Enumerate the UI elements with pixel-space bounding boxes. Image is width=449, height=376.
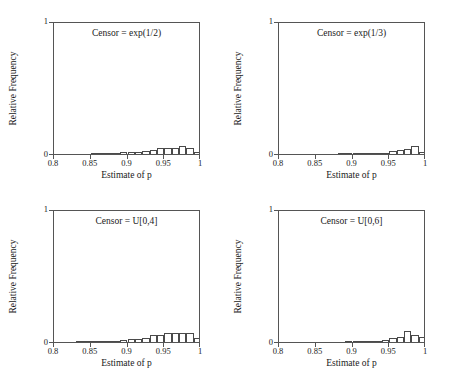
histogram-bar bbox=[179, 146, 186, 154]
histogram-bar bbox=[367, 341, 374, 342]
panel-body: Censor = U[0,4] Estimate of p Relative F… bbox=[0, 188, 224, 376]
histogram-bar bbox=[120, 152, 127, 154]
histogram-bar bbox=[411, 335, 418, 342]
histogram-bar bbox=[91, 153, 98, 154]
x-axis-tick-label: 0.95 bbox=[148, 158, 178, 168]
histogram-bar bbox=[382, 340, 389, 342]
histogram-bar bbox=[360, 153, 367, 154]
histogram-bar bbox=[157, 148, 164, 154]
histogram-bar bbox=[404, 331, 411, 342]
y-axis-tick bbox=[49, 210, 53, 211]
y-axis-title: Relative Frequency bbox=[233, 22, 247, 155]
histogram-bar bbox=[150, 335, 157, 342]
histogram-bar bbox=[120, 340, 127, 342]
x-axis-title: Estimate of p bbox=[53, 170, 200, 180]
panel-body: Censor = exp(1/2) Estimate of p Relative… bbox=[0, 0, 224, 188]
bar-series bbox=[54, 23, 199, 154]
x-axis-tick-label: 0.85 bbox=[75, 346, 105, 356]
histogram-bar bbox=[419, 152, 425, 154]
histogram-bar bbox=[128, 152, 135, 154]
histogram-bar bbox=[135, 339, 142, 342]
histogram-bar bbox=[194, 152, 200, 154]
histogram-bar bbox=[194, 338, 200, 342]
panel-caption: Censor = U[0,6] bbox=[278, 216, 425, 226]
histogram-bar bbox=[367, 153, 374, 154]
x-axis-tick-label: 1 bbox=[410, 158, 440, 168]
panel-censor-exp-1-3: Censor = exp(1/3) Estimate of p Relative… bbox=[225, 0, 449, 188]
histogram-bar bbox=[419, 337, 425, 342]
x-axis-tick-label: 1 bbox=[410, 346, 440, 356]
histogram-bar bbox=[375, 341, 382, 342]
x-axis-tick-label: 0.95 bbox=[373, 346, 403, 356]
x-axis-tick-label: 0.9 bbox=[337, 346, 367, 356]
histogram-bar bbox=[345, 153, 352, 154]
bar-series bbox=[279, 211, 424, 342]
y-axis-tick-label: 0 bbox=[34, 150, 48, 159]
histogram-bar bbox=[186, 333, 193, 342]
histogram-bar bbox=[113, 153, 120, 154]
y-axis-tick bbox=[49, 342, 53, 343]
x-axis-tick-label: 0.85 bbox=[300, 158, 330, 168]
histogram-bar bbox=[113, 341, 120, 342]
y-axis-title: Relative Frequency bbox=[8, 22, 22, 155]
histogram-bar bbox=[164, 148, 171, 154]
x-axis-tick-label: 1 bbox=[185, 158, 215, 168]
histogram-bar bbox=[172, 148, 179, 154]
histogram-bar bbox=[338, 153, 345, 154]
x-axis-tick-label: 0.8 bbox=[263, 346, 293, 356]
panel-censor-u-0-6: Censor = U[0,6] Estimate of p Relative F… bbox=[225, 188, 449, 376]
histogram-bar bbox=[128, 339, 135, 342]
y-axis-tick-label: 1 bbox=[34, 17, 48, 26]
x-axis-tick-label: 0.8 bbox=[38, 346, 68, 356]
histogram-bar bbox=[157, 335, 164, 342]
panel-censor-u-0-4: Censor = U[0,4] Estimate of p Relative F… bbox=[0, 188, 224, 376]
panel-body: Censor = U[0,6] Estimate of p Relative F… bbox=[225, 188, 449, 376]
histogram-bar bbox=[353, 153, 360, 154]
histogram-bar bbox=[135, 152, 142, 154]
histogram-bar bbox=[172, 333, 179, 342]
x-axis-tick-label: 0.85 bbox=[300, 346, 330, 356]
histogram-bar bbox=[164, 333, 171, 342]
y-axis-tick-label: 1 bbox=[34, 205, 48, 214]
histogram-bar bbox=[91, 341, 98, 342]
histogram-bar bbox=[98, 153, 105, 154]
y-axis-tick bbox=[274, 22, 278, 23]
x-axis-tick-label: 0.9 bbox=[337, 158, 367, 168]
histogram-bar bbox=[345, 341, 352, 342]
bar-series bbox=[279, 23, 424, 154]
y-axis-tick-label: 0 bbox=[259, 150, 273, 159]
histogram-bar bbox=[382, 153, 389, 154]
panel-censor-exp-1-2: Censor = exp(1/2) Estimate of p Relative… bbox=[0, 0, 224, 188]
histogram-bar bbox=[83, 341, 90, 342]
y-axis-title: Relative Frequency bbox=[233, 210, 247, 343]
histogram-bar bbox=[411, 146, 418, 154]
y-axis-tick bbox=[49, 22, 53, 23]
histogram-figure: Censor = exp(1/2) Estimate of p Relative… bbox=[0, 0, 449, 376]
x-axis-title: Estimate of p bbox=[278, 358, 425, 368]
y-axis-tick bbox=[274, 210, 278, 211]
panel-caption: Censor = U[0,4] bbox=[53, 216, 200, 226]
plot-area bbox=[278, 210, 425, 343]
histogram-bar bbox=[404, 149, 411, 154]
plot-area bbox=[278, 22, 425, 155]
x-axis-title: Estimate of p bbox=[53, 358, 200, 368]
histogram-bar bbox=[105, 341, 112, 342]
plot-area bbox=[53, 22, 200, 155]
y-axis-title: Relative Frequency bbox=[8, 210, 22, 343]
x-axis-tick-label: 0.9 bbox=[112, 346, 142, 356]
histogram-bar bbox=[142, 151, 149, 154]
y-axis-tick-label: 0 bbox=[259, 338, 273, 347]
histogram-bar bbox=[389, 338, 396, 342]
plot-area bbox=[53, 210, 200, 343]
histogram-bar bbox=[389, 151, 396, 154]
histogram-bar bbox=[142, 338, 149, 342]
x-axis-tick-label: 0.85 bbox=[75, 158, 105, 168]
panel-caption: Censor = exp(1/3) bbox=[278, 28, 425, 38]
y-axis-tick-label: 1 bbox=[259, 17, 273, 26]
histogram-bar bbox=[105, 153, 112, 154]
histogram-bar bbox=[150, 150, 157, 154]
y-axis-tick-label: 0 bbox=[34, 338, 48, 347]
x-axis-tick-label: 0.9 bbox=[112, 158, 142, 168]
bar-series bbox=[54, 211, 199, 342]
y-axis-tick bbox=[274, 154, 278, 155]
